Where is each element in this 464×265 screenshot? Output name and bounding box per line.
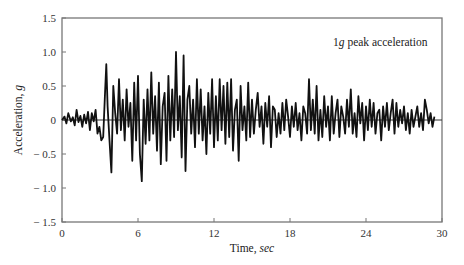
y-tick-label: − 1.5 bbox=[33, 216, 56, 228]
x-tick-label: 30 bbox=[437, 227, 449, 239]
y-tick-label: − 0.5 bbox=[33, 148, 56, 160]
peak-annotation: 1g peak acceleration bbox=[333, 36, 428, 49]
y-tick-label: 1.5 bbox=[42, 12, 56, 24]
x-tick-label: 24 bbox=[361, 227, 373, 239]
y-tick-label: 0.5 bbox=[42, 80, 56, 92]
y-tick-label: − 1.0 bbox=[33, 182, 56, 194]
x-axis-ticks: 0612182430 bbox=[59, 218, 448, 239]
x-axis-title: Time, sec bbox=[230, 242, 274, 255]
acceleration-trace bbox=[62, 52, 434, 181]
x-tick-label: 6 bbox=[135, 227, 141, 239]
y-tick-label: 0 bbox=[51, 114, 57, 126]
x-tick-label: 18 bbox=[285, 227, 297, 239]
acceleration-chart: 1.51.00.50− 0.5− 1.0− 1.5 0612182430 1g … bbox=[0, 0, 464, 265]
y-axis-ticks: 1.51.00.50− 0.5− 1.0− 1.5 bbox=[33, 12, 66, 228]
y-axis-title: Acceleration, g bbox=[12, 85, 25, 156]
x-tick-label: 12 bbox=[209, 227, 220, 239]
x-tick-label: 0 bbox=[59, 227, 65, 239]
y-tick-label: 1.0 bbox=[42, 46, 56, 58]
